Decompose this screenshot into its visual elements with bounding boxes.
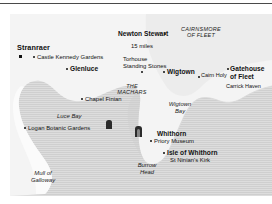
town-label-glenluce: Glenluce	[70, 65, 98, 72]
marker-dot-cairn-holy	[198, 76, 200, 78]
site-label-chapel-finian: Chapel Finian	[85, 96, 122, 102]
town-label-wigtown: Wigtown	[167, 68, 195, 75]
town-label-isle-of-whithorn: Isle of Whithorn	[167, 149, 218, 156]
water-label-wigtown-bay: Wigtown Bay	[163, 101, 197, 115]
scale-distance-label: 15 miles	[120, 43, 164, 49]
map-figure: 15 miles Stranraer Castle Kennedy Garden…	[0, 0, 272, 204]
water-label-luce-bay: Luce Bay	[57, 113, 82, 119]
monument-tower-icon-whithorn	[135, 126, 142, 137]
marker-square-stranraer	[19, 55, 22, 58]
site-label-priory-museum: Priory Museum	[154, 138, 194, 144]
mull-line-1: Mull of	[22, 170, 64, 177]
gatehouse-line-1: Gatehouse	[230, 65, 265, 73]
town-label-stranraer: Stranraer	[17, 44, 50, 52]
torhouse-line-1: Torhouse	[123, 56, 167, 63]
headland-label-mull-of-galloway: Mull of Galloway	[22, 170, 64, 184]
area-label-cairnsmore-of-fleet: CAIRNSMORE OF FLEET	[170, 26, 232, 39]
site-label-carrick-haven: Carrick Haven	[226, 84, 261, 90]
site-label-cairn-holy: Cairn Holy	[201, 73, 227, 79]
site-label-torhouse-standing-stones: Torhouse Standing Stones	[123, 56, 167, 70]
headland-label-burrow-head: Burrow Head	[128, 162, 166, 176]
machars-line-2: MACHARS	[112, 89, 152, 95]
burrow-line-1: Burrow	[128, 162, 166, 169]
site-label-st-ninians-kirk: St Ninian's Kirk	[170, 157, 210, 163]
gatehouse-line-2: of Fleet	[230, 73, 265, 81]
town-label-newton-stewart: Newton Stewart	[118, 30, 168, 37]
burrow-line-2: Head	[128, 169, 166, 176]
wigtown-bay-line-1: Wigtown	[163, 101, 197, 108]
torhouse-line-2: Standing Stones	[123, 63, 167, 70]
town-label-gatehouse-of-fleet: Gatehouse of Fleet	[230, 65, 265, 81]
area-label-the-machars: THE MACHARS	[112, 83, 152, 96]
town-label-whithorn: Whithorn	[157, 130, 186, 137]
mull-line-2: Galloway	[22, 177, 64, 184]
site-label-castle-kennedy-gardens: Castle Kennedy Gardens	[37, 54, 103, 60]
site-label-logan-botanic-gardens: Logan Botanic Gardens	[28, 125, 90, 131]
cairnsmore-line-2: OF FLEET	[170, 32, 232, 38]
wigtown-bay-line-2: Bay	[163, 108, 197, 115]
monument-tower-icon-machars	[106, 120, 112, 129]
